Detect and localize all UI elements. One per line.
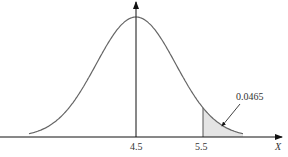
- tick-label-mean: 4.5: [130, 141, 143, 152]
- area-annotation: 0.0465: [236, 91, 264, 102]
- annotation-arrow: [222, 104, 240, 126]
- tick-label-cut: 5.5: [195, 141, 208, 152]
- normal-curve-plot: [0, 0, 288, 157]
- x-axis-label: X: [275, 141, 281, 152]
